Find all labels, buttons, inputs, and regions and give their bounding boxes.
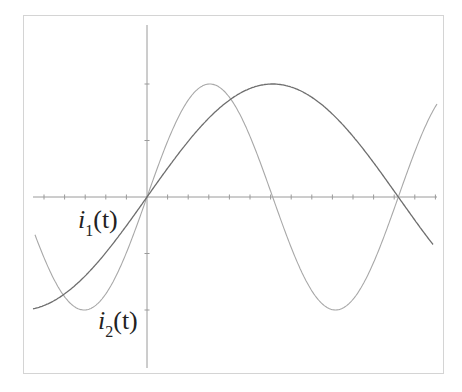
- chart-plot: [0, 0, 462, 392]
- label-i1-sub: 1: [85, 222, 93, 239]
- label-i2-arg: (t): [113, 306, 138, 335]
- label-i2-sub: 2: [105, 323, 113, 340]
- label-i1-arg: (t): [93, 205, 118, 234]
- axes: [33, 25, 437, 368]
- series-i1-label: i1(t): [78, 207, 118, 233]
- series-i1-line: [33, 84, 433, 309]
- series-i2-label: i2(t): [98, 308, 138, 334]
